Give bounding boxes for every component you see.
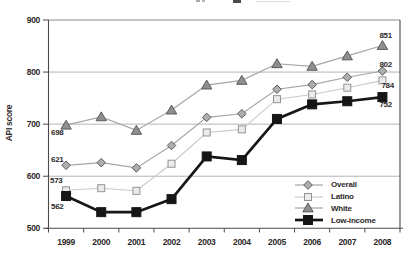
chart-figure: API score 900800700600500199920002001200… (0, 0, 412, 263)
data-point-latino-2003 (203, 129, 210, 136)
legend: Overall Latino White Low-income (294, 179, 376, 226)
data-point-latino-2004 (238, 126, 245, 133)
y-axis-title: API score (4, 104, 14, 141)
data-point-white-2001 (131, 125, 141, 134)
y-tick-label-900: 900 (27, 15, 41, 25)
data-point-latino-2001 (133, 187, 140, 194)
data-point-low-income-2005 (272, 114, 281, 123)
latino-square-marker-icon (294, 192, 324, 202)
legend-item-overall: Overall (294, 179, 376, 191)
data-point-overall-2001 (132, 164, 141, 173)
point-label-802: 802 (379, 60, 392, 69)
data-point-latino-2000 (98, 185, 105, 192)
x-tick-label-2001: 2001 (128, 237, 146, 247)
data-point-overall-2000 (97, 158, 106, 167)
data-point-white-2000 (96, 112, 106, 121)
data-point-white-2008 (377, 41, 387, 50)
point-label-752: 752 (379, 100, 392, 109)
point-label-851: 851 (379, 31, 392, 40)
white-triangle-marker-icon (294, 203, 324, 213)
legend-item-latino: Latino (294, 191, 376, 203)
legend-item-low-income: Low-income (294, 214, 376, 226)
legend-label-white: White (331, 204, 352, 213)
data-point-low-income-2002 (167, 195, 176, 204)
overall-diamond-marker-icon (294, 180, 324, 190)
data-point-overall-2005 (273, 85, 282, 94)
legend-label-latino: Latino (331, 192, 354, 201)
x-tick-label-2006: 2006 (303, 237, 321, 247)
data-point-low-income-2007 (343, 97, 352, 106)
point-label-621: 621 (51, 155, 64, 164)
data-point-white-2005 (272, 59, 282, 68)
data-point-white-2002 (166, 105, 176, 114)
data-point-low-income-1999 (62, 192, 71, 201)
legend-marker-low-income (304, 216, 313, 225)
data-point-low-income-2004 (237, 156, 246, 165)
data-point-overall-2007 (343, 73, 352, 82)
data-point-latino-2006 (309, 91, 316, 98)
x-tick-label-2007: 2007 (338, 237, 356, 247)
legend-label-low-income: Low-income (331, 216, 376, 225)
point-label-698: 698 (51, 128, 64, 137)
series-line-overall (66, 71, 382, 168)
x-tick-label-2008: 2008 (374, 237, 392, 247)
low-income-square-marker-icon (294, 215, 324, 225)
point-label-573: 573 (50, 176, 63, 185)
data-point-white-2004 (237, 75, 247, 84)
y-tick-label-700: 700 (27, 119, 41, 129)
point-label-784: 784 (381, 81, 394, 90)
point-label-562: 562 (51, 202, 64, 211)
x-tick-label-2000: 2000 (92, 237, 110, 247)
data-point-low-income-2000 (97, 208, 106, 217)
series-line-white (66, 46, 382, 131)
x-tick-label-2002: 2002 (163, 237, 181, 247)
data-point-low-income-2003 (202, 152, 211, 161)
x-tick-label-2005: 2005 (268, 237, 286, 247)
x-tick-label-1999: 1999 (57, 237, 75, 247)
legend-marker-latino (305, 193, 312, 200)
legend-item-white: White (294, 203, 376, 215)
y-tick-label-800: 800 (27, 67, 41, 77)
x-tick-label-2003: 2003 (198, 237, 216, 247)
series-line-latino (66, 80, 382, 190)
data-point-latino-2002 (168, 160, 175, 167)
data-point-low-income-2001 (132, 208, 141, 217)
legend-marker-overall (304, 181, 313, 190)
data-point-latino-2007 (344, 84, 351, 91)
data-point-overall-2004 (238, 109, 247, 118)
data-point-latino-2005 (273, 96, 280, 103)
x-tick-label-2004: 2004 (233, 237, 251, 247)
data-point-overall-2006 (308, 80, 317, 89)
legend-label-overall: Overall (331, 180, 357, 189)
y-tick-label-600: 600 (27, 171, 41, 181)
data-point-low-income-2006 (308, 100, 317, 109)
y-tick-label-500: 500 (27, 223, 41, 233)
